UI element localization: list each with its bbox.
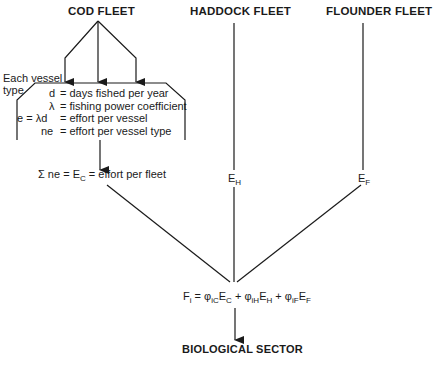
def-lambda-rhs: = fishing power coefficient xyxy=(60,100,187,112)
cod-converge-line xyxy=(107,185,230,282)
def-e-lhs: e = λd xyxy=(17,112,47,124)
flounder-effort-label: EF xyxy=(358,172,370,184)
flounder-converge-line xyxy=(237,185,361,282)
def-ne-lhs: ne xyxy=(41,125,53,137)
haddock-effort-label: EH xyxy=(228,172,241,184)
each-vessel-label: Each vessel xyxy=(3,72,62,84)
cod-fleet-label: COD FLEET xyxy=(68,5,135,17)
def-lambda-lhs: λ xyxy=(49,100,55,112)
mortality-equation: Fi = φiCEC + φiHEH + φiFEF xyxy=(183,290,311,302)
def-e-rhs: = effort per vessel xyxy=(60,112,148,124)
flounder-fleet-label: FLOUNDER FLEET xyxy=(326,5,432,17)
haddock-fleet-label: HADDOCK FLEET xyxy=(190,5,291,17)
def-d-rhs: = days fished per year xyxy=(60,87,169,99)
biological-sector-label: BIOLOGICAL SECTOR xyxy=(182,343,303,355)
diagram-lines xyxy=(0,0,437,370)
type-label: type xyxy=(3,84,24,96)
cod-arrow-right xyxy=(98,21,136,82)
def-d-lhs: d xyxy=(49,87,55,99)
sum-equation: Σ ne = EC = effort per fleet xyxy=(38,168,166,180)
cod-arrow-left xyxy=(65,21,98,82)
def-ne-rhs: = effort per vessel type xyxy=(60,125,171,137)
